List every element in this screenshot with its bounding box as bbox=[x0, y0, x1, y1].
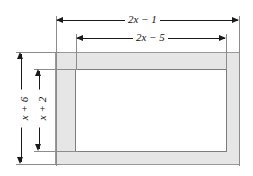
label-outer-width: 2x − 1 bbox=[125, 14, 160, 25]
arrow-down-outer-height-icon bbox=[17, 157, 23, 164]
arrow-right-inner-width-icon bbox=[219, 35, 226, 41]
arrow-left-inner-width-icon bbox=[76, 35, 83, 41]
extension-line-outer-left bbox=[56, 16, 57, 166]
extension-line-inner-right bbox=[226, 34, 227, 70]
extension-line-outer-bottom bbox=[16, 164, 60, 165]
extension-line-inner-bottom bbox=[34, 151, 78, 152]
inner-rectangle bbox=[75, 69, 227, 152]
extension-line-outer-right bbox=[239, 16, 240, 166]
label-inner-height: x + 2 bbox=[37, 90, 48, 128]
arrow-up-outer-height-icon bbox=[17, 52, 23, 59]
arrow-down-inner-height-icon bbox=[35, 144, 41, 151]
geometry-figure: 2x − 1 2x − 5 x + 6 x + 2 bbox=[0, 0, 253, 176]
arrow-left-outer-width-icon bbox=[56, 17, 63, 23]
arrow-up-inner-height-icon bbox=[35, 69, 41, 76]
label-outer-height: x + 6 bbox=[19, 90, 30, 128]
label-inner-width: 2x − 5 bbox=[133, 32, 168, 43]
arrow-right-outer-width-icon bbox=[232, 17, 239, 23]
